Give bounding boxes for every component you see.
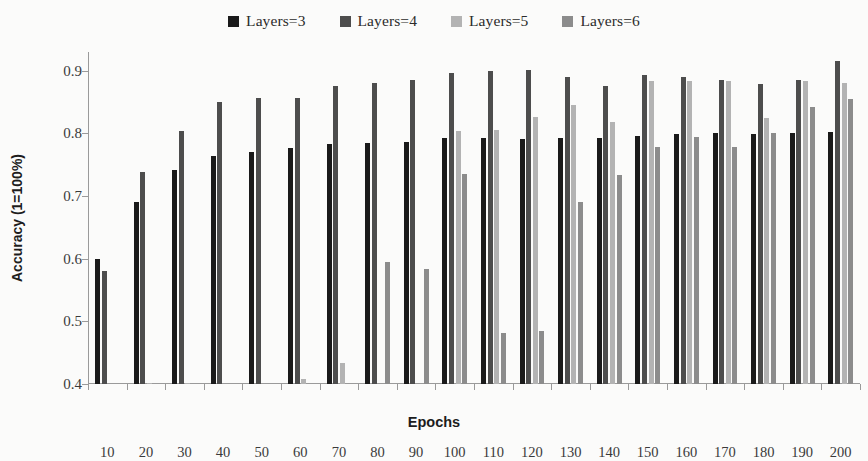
bar — [488, 71, 493, 384]
x-axis-tick-label: 100 — [444, 444, 466, 461]
x-axis-tick-label: 40 — [216, 444, 231, 461]
bar — [603, 86, 608, 384]
x-axis-tick — [667, 384, 668, 390]
y-axis-tick — [82, 133, 88, 134]
chart-legend: Layers=3Layers=4Layers=5Layers=6 — [0, 8, 868, 34]
x-axis-tick — [397, 384, 398, 390]
bar — [796, 80, 801, 384]
x-axis-tick-label: 90 — [409, 444, 424, 461]
bar — [520, 139, 525, 384]
bar — [179, 131, 184, 384]
legend-item-label: Layers=6 — [580, 12, 639, 30]
x-axis-tick — [590, 384, 591, 390]
bar — [327, 144, 332, 384]
bar — [610, 122, 615, 384]
bar — [764, 118, 769, 384]
x-axis-tick-label: 80 — [370, 444, 385, 461]
legend-item[interactable]: Layers=6 — [562, 12, 639, 30]
bar — [558, 138, 563, 384]
bar — [288, 148, 293, 384]
bar — [211, 156, 216, 384]
x-axis-tick — [860, 384, 861, 390]
x-axis-tick-label: 120 — [521, 444, 543, 461]
bar — [565, 77, 570, 384]
y-axis-tick — [82, 71, 88, 72]
bar — [172, 170, 177, 384]
bar — [539, 331, 544, 384]
bar — [462, 174, 467, 384]
bar — [442, 138, 447, 384]
legend-item-label: Layers=3 — [246, 12, 305, 30]
x-axis-tick-label: 10 — [100, 444, 115, 461]
bar — [494, 130, 499, 384]
legend-swatch-icon — [228, 16, 239, 27]
x-axis-tick — [821, 384, 822, 390]
x-axis-tick-label: 180 — [753, 444, 775, 461]
x-axis-tick — [320, 384, 321, 390]
bar — [649, 81, 654, 384]
bar — [835, 61, 840, 384]
y-axis-tick-labels: 0.40.50.60.70.80.9 — [32, 52, 82, 384]
y-axis-tick — [82, 196, 88, 197]
bar — [533, 117, 538, 384]
bar — [642, 75, 647, 384]
legend-item[interactable]: Layers=5 — [451, 12, 528, 30]
y-axis-title: Accuracy (1=100%) — [4, 50, 30, 385]
bar — [217, 102, 222, 385]
x-axis-tick-label: 50 — [254, 444, 269, 461]
legend-item-label: Layers=4 — [358, 12, 417, 30]
bar — [340, 363, 345, 384]
bar — [674, 134, 679, 384]
bar — [185, 383, 190, 384]
plot-area: 1020304050607080901001101201301401501601… — [88, 52, 860, 384]
y-axis-tick-label: 0.7 — [38, 188, 82, 205]
x-axis-tick — [706, 384, 707, 390]
x-axis-tick — [744, 384, 745, 390]
bar — [635, 136, 640, 384]
bar — [758, 84, 763, 384]
x-axis-tick — [474, 384, 475, 390]
bar — [481, 138, 486, 384]
bar — [372, 83, 377, 384]
legend-item[interactable]: Layers=4 — [340, 12, 417, 30]
x-axis-tick — [783, 384, 784, 390]
y-axis-tick-label: 0.9 — [38, 62, 82, 79]
x-axis-tick-label: 190 — [791, 444, 813, 461]
bar — [404, 142, 409, 384]
bar — [333, 86, 338, 384]
x-axis-tick-label: 130 — [560, 444, 582, 461]
bar — [751, 134, 756, 384]
x-axis-tick-label: 20 — [139, 444, 154, 461]
x-axis-tick-label: 30 — [177, 444, 192, 461]
bar — [848, 99, 853, 384]
legend-item[interactable]: Layers=3 — [228, 12, 305, 30]
bar — [134, 202, 139, 384]
x-axis-tick — [242, 384, 243, 390]
bar — [449, 73, 454, 384]
bar — [410, 80, 415, 384]
x-axis-tick-label: 70 — [332, 444, 347, 461]
bar — [578, 202, 583, 384]
x-axis-tick — [127, 384, 128, 390]
bar — [713, 133, 718, 384]
legend-swatch-icon — [562, 16, 573, 27]
bar — [365, 143, 370, 384]
bar — [147, 383, 152, 384]
x-axis-tick — [88, 384, 89, 390]
x-axis-tick-label: 170 — [714, 444, 736, 461]
y-axis-tick-label: 0.8 — [38, 125, 82, 142]
bar — [790, 133, 795, 384]
bar — [571, 105, 576, 384]
bar — [597, 138, 602, 384]
bar — [842, 83, 847, 384]
bar — [655, 147, 660, 384]
bar — [719, 80, 724, 384]
bar — [140, 172, 145, 384]
y-axis-title-text: Accuracy (1=100%) — [9, 153, 25, 281]
bar — [249, 152, 254, 384]
x-axis-tick-label: 110 — [483, 444, 504, 461]
x-axis-tick-label: 200 — [830, 444, 852, 461]
bar — [681, 77, 686, 384]
bar — [694, 137, 699, 384]
